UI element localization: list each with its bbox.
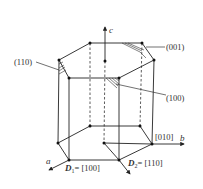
plane-110-hatch — [59, 62, 66, 74]
a-axis-label: a — [46, 156, 51, 166]
hidden-vertical-edge-back-right — [140, 43, 142, 126]
plane-110-callout: (110) — [14, 57, 59, 70]
plane-001-hatch — [122, 43, 146, 58]
d1-label: D1= [100] — [64, 163, 100, 174]
c-axis-label: c — [109, 25, 113, 35]
hidden-edges — [90, 43, 142, 143]
hidden-center-axis — [104, 61, 105, 143]
hexagonal-prism-diagram: c [010] b a D1= [100] D2= [110] — [0, 0, 203, 189]
plane-001-callout: (001) — [146, 42, 185, 52]
b-direction-label: [010] — [155, 132, 174, 142]
plane-100-label: (100) — [166, 93, 185, 103]
plane-100-hatch — [106, 78, 119, 88]
b-axis: [010] b — [152, 132, 185, 144]
plane-001-label: (001) — [166, 42, 185, 52]
plane-110-label: (110) — [14, 57, 32, 67]
d2-label: D2= [110] — [127, 158, 163, 169]
b-axis-label: b — [180, 133, 185, 143]
plane-100-callout: (100) — [116, 84, 185, 103]
